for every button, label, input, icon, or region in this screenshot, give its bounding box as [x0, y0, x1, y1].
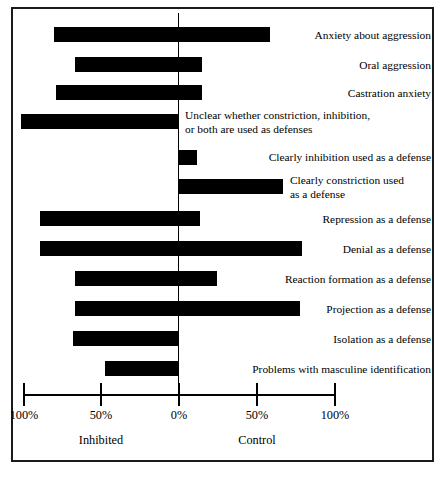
chart-frame: Anxiety about aggression Oral aggression… — [11, 7, 434, 462]
bar-control — [178, 27, 270, 42]
bar-inhibited — [75, 57, 178, 72]
axis-tick — [178, 383, 180, 406]
axis-tick-label: 0% — [149, 408, 209, 423]
axis-tick-label: 50% — [227, 408, 287, 423]
bar-label: Anxiety about aggression — [315, 28, 431, 42]
bar-label: Problems with masculine identification — [252, 362, 431, 376]
bar-control — [178, 301, 300, 316]
bar-control — [178, 85, 202, 100]
axis-tick — [334, 383, 336, 406]
bar-inhibited — [54, 27, 178, 42]
bar-label: Isolation as a defense — [333, 332, 431, 346]
bar-inhibited — [56, 85, 178, 100]
axis-tick-label: 100% — [305, 408, 365, 423]
plot-area: Anxiety about aggression Oral aggression… — [13, 9, 432, 460]
bar-label: Oral aggression — [359, 58, 431, 72]
bar-control — [178, 271, 217, 286]
axis-tick — [23, 383, 25, 406]
bar-inhibited — [40, 241, 178, 256]
bar-inhibited — [73, 331, 178, 346]
axis-side-label-inhibited: Inhibited — [41, 433, 161, 448]
bar-label: Reaction formation as a defense — [285, 272, 431, 286]
bar-label: Unclear whether constriction, inhibition… — [185, 108, 430, 136]
bar-label: Repression as a defense — [323, 212, 432, 226]
bar-inhibited — [40, 211, 178, 226]
axis-tick-label: 100% — [0, 408, 54, 423]
bar-inhibited — [75, 271, 178, 286]
bar-control — [178, 241, 302, 256]
bar-label: Clearly inhibition used as a defense — [269, 150, 431, 164]
bar-label: Clearly constriction used as a defense — [290, 173, 432, 201]
bar-inhibited — [75, 301, 178, 316]
bar-control — [178, 57, 202, 72]
bar-inhibited — [105, 361, 178, 376]
axis-side-label-control: Control — [197, 433, 317, 448]
bar-control — [178, 179, 283, 194]
bar-inhibited — [21, 114, 178, 129]
axis-tick-label: 50% — [71, 408, 131, 423]
bar-control — [178, 211, 200, 226]
bar-label: Projection as a defense — [326, 302, 431, 316]
bar-control — [178, 150, 197, 165]
bar-label: Denial as a defense — [343, 242, 431, 256]
axis-tick — [256, 383, 258, 406]
bar-label: Castration anxiety — [348, 86, 431, 100]
axis-tick — [100, 383, 102, 406]
